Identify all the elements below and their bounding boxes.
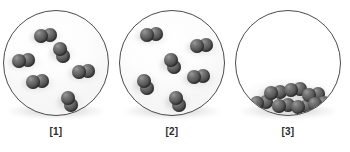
panel-1-label: [1] [0,126,112,137]
atom [284,83,298,97]
atom [53,42,67,56]
atom [169,91,183,105]
panel-2: [2] [116,0,232,152]
atom [190,39,204,53]
vessel-3 [235,10,341,116]
molecule [190,38,214,54]
molecule [308,96,332,112]
vessel-1-wrap [0,9,112,120]
states-of-matter-figure: [1] [2] [0,0,350,152]
molecule [59,91,83,107]
atom [137,74,151,88]
atom [26,75,40,89]
atom [34,29,48,43]
vessel-2-wrap [116,9,228,120]
molecule [12,53,36,69]
atom [12,54,26,68]
panel-3: [3] [232,0,348,152]
molecule [72,64,96,80]
atom [250,96,264,110]
panel-1: [1] [0,0,116,152]
vessel-3-wrap [232,9,344,120]
molecule [162,53,186,69]
molecule [167,91,191,107]
atom [140,28,154,42]
vessel-2 [119,10,225,116]
vessel-1 [3,10,109,116]
atom [72,65,86,79]
atom [164,53,178,67]
atom [187,70,201,84]
atom [308,97,322,111]
atom [61,91,75,105]
molecule [51,42,75,58]
atom [264,86,278,100]
molecule [26,74,50,90]
molecule [135,74,159,90]
panel-3-label: [3] [232,126,344,137]
atom [291,100,305,114]
molecule [140,27,164,43]
panel-2-label: [2] [116,126,228,137]
molecule [187,69,211,85]
atom [272,99,286,113]
